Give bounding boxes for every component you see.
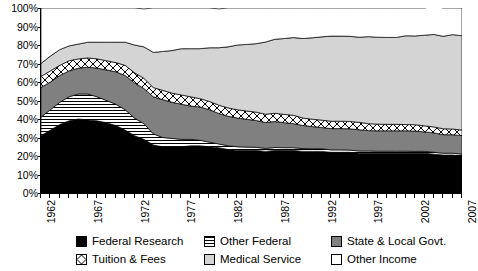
legend-label-federal-research: Federal Research <box>92 235 183 247</box>
legend-item-other-income: Other Income <box>331 253 466 265</box>
x-axis-tick <box>180 194 181 198</box>
x-axis-tick <box>311 194 312 198</box>
x-axis: 1962196719721977198219871992199720022007 <box>40 194 464 234</box>
y-axis-label: 40% <box>17 113 38 125</box>
legend-label-other-federal: Other Federal <box>220 235 291 247</box>
x-axis-tick <box>96 194 97 198</box>
y-axis-label: 30% <box>17 132 38 144</box>
x-axis-tick <box>265 194 266 198</box>
legend-label-tuition-fees: Tuition & Fees <box>92 253 166 265</box>
x-axis-tick <box>255 194 256 198</box>
x-axis-tick <box>339 194 340 198</box>
x-axis-label: 1992 <box>326 200 338 223</box>
y-axis-label: 100% <box>11 2 38 14</box>
legend-swatch-tuition-fees <box>76 254 87 265</box>
x-axis-label: 1982 <box>232 200 244 223</box>
x-axis-tick <box>274 194 275 198</box>
legend-swatch-other-income <box>331 254 342 265</box>
x-axis-tick <box>171 194 172 198</box>
plot-area <box>40 8 462 194</box>
x-axis-tick <box>424 194 425 198</box>
x-axis-label: 1997 <box>372 200 384 223</box>
x-axis-tick <box>77 194 78 198</box>
x-axis-tick <box>442 194 443 198</box>
x-axis-tick <box>461 194 462 198</box>
x-axis-tick <box>190 194 191 198</box>
y-axis-label: 0% <box>23 187 38 199</box>
x-axis-tick <box>199 194 200 198</box>
x-axis-tick <box>105 194 106 198</box>
legend-label-medical-service: Medical Service <box>220 253 301 265</box>
x-axis-tick <box>68 194 69 198</box>
x-axis-label: 1972 <box>139 200 151 223</box>
x-axis-tick <box>405 194 406 198</box>
x-axis-tick <box>208 194 209 198</box>
legend-swatch-other-federal <box>204 236 215 247</box>
y-axis-label: 90% <box>17 21 38 33</box>
x-axis-label: 1977 <box>185 200 197 223</box>
chart-container: 0%10%20%30%40%50%60%70%80%90%100% 196219… <box>0 0 478 271</box>
x-axis-tick <box>152 194 153 198</box>
legend-item-federal-research: Federal Research <box>76 235 204 247</box>
x-axis-label: 1962 <box>45 200 57 223</box>
x-axis-tick <box>143 194 144 198</box>
legend-label-state-local-govt: State & Local Govt. <box>347 235 446 247</box>
chart-legend: Federal Research Other Federal State & L… <box>76 232 466 268</box>
x-axis-tick <box>134 194 135 198</box>
legend-item-other-federal: Other Federal <box>204 235 331 247</box>
x-axis-tick <box>218 194 219 198</box>
x-axis-tick <box>386 194 387 198</box>
y-axis-label: 10% <box>17 169 38 181</box>
x-axis-tick <box>59 194 60 198</box>
x-axis-tick <box>414 194 415 198</box>
x-axis-tick <box>321 194 322 198</box>
x-axis-tick <box>330 194 331 198</box>
legend-swatch-state-local-govt <box>331 236 342 247</box>
x-axis-tick <box>87 194 88 198</box>
y-axis-label: 50% <box>17 95 38 107</box>
y-axis-label: 20% <box>17 150 38 162</box>
legend-swatch-federal-research <box>76 236 87 247</box>
x-axis-tick <box>124 194 125 198</box>
y-axis-label: 70% <box>17 58 38 70</box>
legend-label-other-income: Other Income <box>347 253 417 265</box>
y-axis: 0%10%20%30%40%50%60%70%80%90%100% <box>0 8 38 194</box>
x-axis-label: 1967 <box>92 200 104 223</box>
x-axis-tick <box>358 194 359 198</box>
x-axis-tick <box>162 194 163 198</box>
x-axis-tick <box>283 194 284 198</box>
y-axis-label: 60% <box>17 76 38 88</box>
x-axis-tick <box>367 194 368 198</box>
x-axis-tick <box>377 194 378 198</box>
x-axis-label: 1987 <box>279 200 291 223</box>
x-axis-tick <box>40 194 41 198</box>
legend-item-tuition-fees: Tuition & Fees <box>76 253 204 265</box>
x-axis-tick <box>433 194 434 198</box>
x-axis-tick <box>227 194 228 198</box>
legend-swatch-medical-service <box>204 254 215 265</box>
legend-item-medical-service: Medical Service <box>204 253 331 265</box>
stacked-area-plot <box>41 8 462 193</box>
x-axis-tick <box>246 194 247 198</box>
y-axis-label: 80% <box>17 39 38 51</box>
x-axis-label: 2002 <box>419 200 431 223</box>
legend-item-state-local-govt: State & Local Govt. <box>331 235 466 247</box>
x-axis-tick <box>452 194 453 198</box>
x-axis-tick <box>396 194 397 198</box>
x-axis-label: 2007 <box>466 200 478 223</box>
x-axis-tick <box>349 194 350 198</box>
x-axis-tick <box>293 194 294 198</box>
x-axis-tick <box>302 194 303 198</box>
x-axis-tick <box>49 194 50 198</box>
x-axis-tick <box>115 194 116 198</box>
x-axis-tick <box>236 194 237 198</box>
